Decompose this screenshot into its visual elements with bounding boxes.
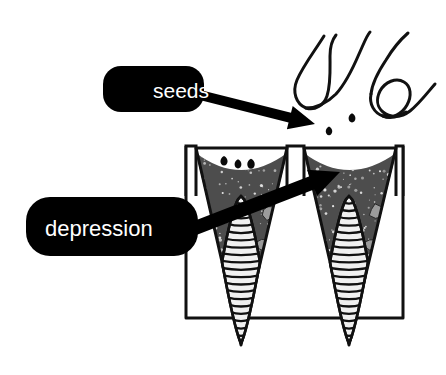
rim-lip-left xyxy=(186,146,196,196)
rim-lip-right xyxy=(396,146,403,196)
callout-seeds[interactable]: seeds xyxy=(103,66,209,112)
root-trainer-tray xyxy=(186,146,403,345)
callout-depression-label: depression xyxy=(45,216,153,241)
callout-seeds-label: seeds xyxy=(153,79,209,102)
figure-canvas: seeds depression xyxy=(0,0,446,375)
seed-sowing-diagram: seeds depression xyxy=(0,0,446,375)
callout-depression[interactable]: depression xyxy=(26,197,198,256)
